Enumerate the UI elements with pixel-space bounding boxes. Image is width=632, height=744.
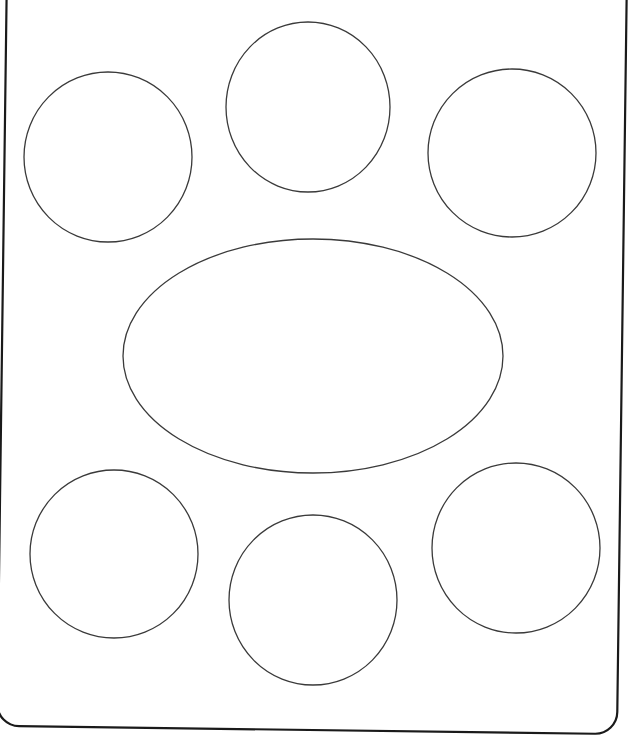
canvas-background [0, 0, 632, 744]
diagram-svg [0, 0, 632, 744]
diagram-canvas [0, 0, 632, 744]
